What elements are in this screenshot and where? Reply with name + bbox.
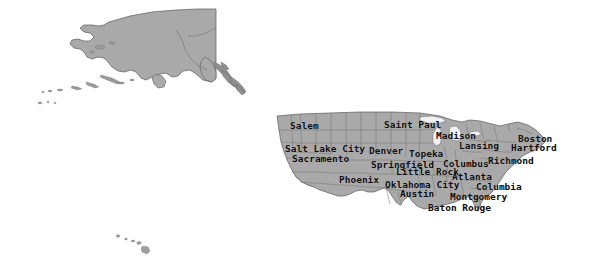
- city-label-lansing: Lansing: [459, 141, 499, 151]
- city-label-montgomery: Montgomery: [450, 192, 507, 202]
- map-canvas: [0, 0, 595, 264]
- city-label-little-rock: Little Rock: [396, 167, 459, 177]
- alaska-panhandle-islands: [214, 62, 246, 95]
- city-label-austin: Austin: [400, 189, 434, 199]
- city-label-saint-paul: Saint Paul: [384, 120, 441, 130]
- city-label-hartford: Hartford: [511, 143, 557, 153]
- alaska-mainland: [70, 9, 216, 82]
- city-label-salem: Salem: [290, 121, 319, 131]
- hawaii-oahu: [125, 238, 128, 240]
- region-hawaii: [116, 235, 150, 254]
- city-label-denver: Denver: [369, 146, 403, 156]
- region-alaska: [38, 9, 246, 104]
- city-label-baton-rouge: Baton Rouge: [428, 203, 491, 213]
- city-label-richmond: Richmond: [488, 156, 534, 166]
- city-label-phoenix: Phoenix: [339, 175, 379, 185]
- city-label-topeka: Topeka: [409, 149, 443, 159]
- hawaii-kauai: [116, 235, 120, 238]
- city-label-sacramento: Sacramento: [292, 154, 349, 164]
- alaska-pribilof-islands: [38, 101, 56, 104]
- alaska-kenai-peninsula: [152, 74, 166, 88]
- hawaii-big-island: [141, 246, 150, 254]
- hawaii-maui: [137, 242, 141, 245]
- hawaii-molokai: [131, 240, 135, 242]
- alaska-aleutian-islands: [42, 75, 135, 93]
- us-capitals-map-figure: Salem Saint Paul Madison Boston Lansing …: [0, 0, 595, 264]
